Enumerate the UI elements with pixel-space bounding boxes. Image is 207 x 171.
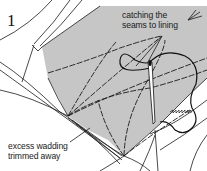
label-line: seams to lining bbox=[122, 21, 178, 31]
label-catching-seams: catching the seams to lining bbox=[122, 11, 178, 30]
label-line: trimmed away bbox=[8, 152, 68, 162]
sewing-illustration: 1 catching the seams to lining excess wa… bbox=[0, 0, 207, 171]
pinked-edge bbox=[170, 110, 191, 113]
label-excess-wadding: excess wadding trimmed away bbox=[8, 142, 68, 161]
step-number: 1 bbox=[7, 12, 16, 29]
